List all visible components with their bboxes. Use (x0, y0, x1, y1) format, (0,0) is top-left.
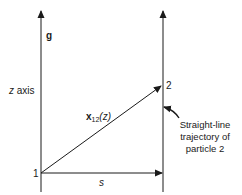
vector-x12-label: x12(z) (86, 111, 111, 123)
vector-argument: (z) (99, 111, 111, 122)
relative-position-arrow (41, 86, 161, 173)
z-axis-word: axis (14, 85, 35, 96)
gravity-label: g (46, 30, 52, 41)
annotation-pointer-arrow (164, 107, 179, 118)
separation-label: s (99, 177, 104, 188)
annotation-line-2: trajectory of (180, 131, 230, 142)
trajectory-diagram: g z axis x12(z) 1 2 s Straight-line traj… (0, 0, 242, 195)
point-2-label: 2 (166, 80, 172, 91)
z-axis-label: z axis (8, 85, 35, 96)
vector-subscript: 12 (92, 116, 100, 123)
annotation-line-1: Straight-line (180, 119, 231, 130)
annotation-line-3: particle 2 (186, 143, 225, 154)
point-1-label: 1 (33, 168, 39, 179)
